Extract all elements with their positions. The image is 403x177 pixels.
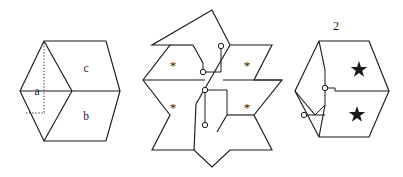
hexagon-2-svg: 2: [289, 0, 403, 177]
node-circle-lower-left: [202, 122, 207, 127]
upper-rhombus-edge-diag: [193, 45, 203, 63]
figure-hexagon-abc: a c b: [0, 0, 140, 177]
figure-caption-2: 2: [333, 19, 339, 33]
marker-star-upper: [351, 61, 368, 77]
figure-star: * * * *: [137, 0, 289, 177]
figure-panel: a c b: [0, 0, 403, 177]
node-circle-upper-left: [200, 69, 205, 74]
star-svg: * * * *: [137, 0, 289, 177]
label-a: a: [34, 85, 39, 97]
label-c: c: [83, 62, 88, 74]
rhombus-edge-top-center: [44, 41, 72, 91]
node-circle-upper-right: [218, 43, 223, 48]
marker-star-lower: [349, 106, 366, 122]
rhombus-edge-center-bottom: [44, 91, 72, 141]
marker-asterisk-top-right: *: [244, 58, 251, 73]
node-circle-lower-right: [202, 87, 207, 92]
lower-rhombus-edge-diag: [217, 115, 227, 132]
figure-hexagon-2: 2: [289, 0, 403, 177]
marker-asterisk-top-left: *: [170, 58, 177, 73]
marker-asterisk-bottom-right: *: [244, 100, 251, 115]
hexagon-abc-svg: a c b: [0, 0, 140, 177]
crossing-diagonal-lower: [194, 104, 196, 150]
marker-asterisk-bottom-left: *: [170, 100, 177, 115]
hexagram-outline: [143, 10, 282, 167]
hexagon-2-outline: [295, 41, 389, 137]
hexagon-2-edge-top-down: [319, 41, 325, 70]
hexagon-2-node-circle-lower: [301, 112, 306, 117]
hexagon-2-node-circle-upper: [322, 85, 327, 90]
label-b: b: [83, 110, 89, 122]
